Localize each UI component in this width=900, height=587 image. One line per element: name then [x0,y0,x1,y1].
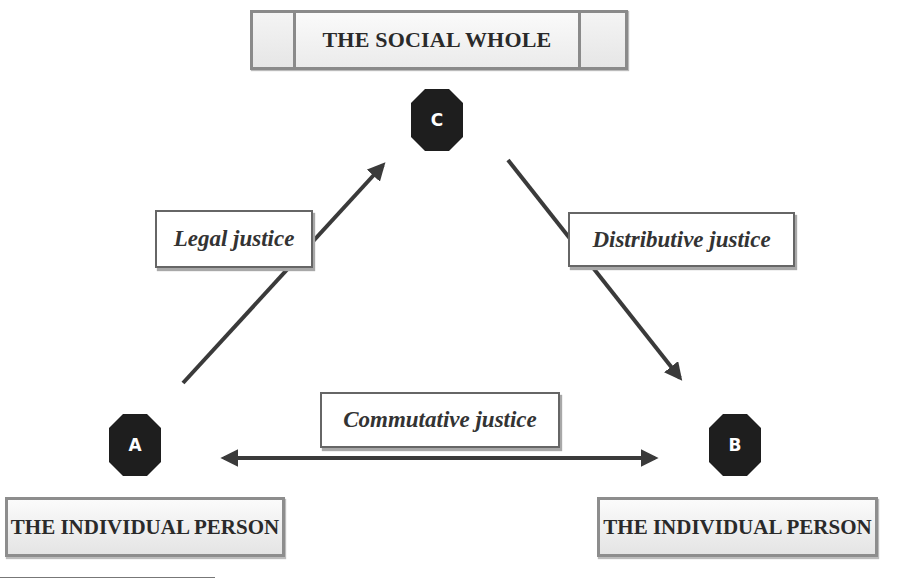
individual-person-b-label: THE INDIVIDUAL PERSON [603,515,871,540]
social-whole-title: THE SOCIAL WHOLE [323,27,552,53]
commutative-justice-label: Commutative justice [343,407,537,433]
node-b-letter: B [709,414,761,476]
footnote-divider [0,577,215,578]
commutative-justice-label-box: Commutative justice [320,392,560,448]
individual-person-a-label: THE INDIVIDUAL PERSON [11,515,279,540]
node-a-octagon-icon: A [109,414,161,476]
node-c-letter: C [411,89,463,151]
distributive-justice-label-box: Distributive justice [568,212,795,267]
social-whole-box: THE SOCIAL WHOLE [250,10,628,70]
individual-person-a-box: THE INDIVIDUAL PERSON [5,497,285,557]
node-b-octagon-icon: B [709,414,761,476]
legal-justice-arrow [183,165,383,383]
node-c-octagon-icon: C [411,89,463,151]
distributive-justice-arrow [508,160,680,378]
individual-person-b-box: THE INDIVIDUAL PERSON [597,497,878,557]
node-a-letter: A [109,414,161,476]
legal-justice-label: Legal justice [174,226,295,252]
legal-justice-label-box: Legal justice [155,210,313,268]
distributive-justice-label: Distributive justice [592,227,770,253]
